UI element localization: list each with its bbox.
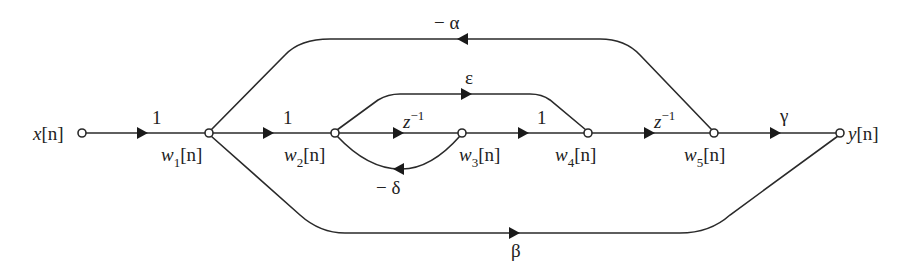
label-w2: w2[n] [284, 144, 325, 170]
arrow-right-icon [263, 127, 274, 139]
label-w4: w4[n] [555, 144, 596, 170]
arrow-left-icon [393, 163, 404, 175]
gain-w2-w3: z−1 [402, 108, 424, 132]
gain-w1-w2: 1 [283, 107, 293, 128]
node-w3 [458, 129, 466, 137]
gain-w4-w5: z−1 [653, 108, 675, 132]
node-w4 [584, 129, 592, 137]
arrow-left-icon [457, 33, 468, 45]
gain-w5-y: γ [779, 105, 788, 126]
signal-flow-graph: x[n] y[n] w1[n] w2[n] w3[n] w4[n] w5[n] … [0, 0, 922, 279]
label-w5: w5[n] [684, 144, 725, 170]
arrow-right-icon [518, 127, 529, 139]
gain-alpha: − α [434, 12, 459, 33]
node-w1 [205, 129, 213, 137]
node-x [78, 129, 86, 137]
label-x: x[n] [32, 123, 64, 144]
label-w3: w3[n] [459, 144, 500, 170]
label-y: y[n] [846, 123, 879, 144]
label-w1: w1[n] [161, 144, 202, 170]
node-w5 [710, 129, 718, 137]
gain-beta: β [511, 240, 521, 261]
edge-w3-w2-delta [337, 136, 460, 169]
arrow-right-icon [770, 127, 781, 139]
arrow-right-icon [137, 127, 148, 139]
arrow-right-icon [509, 227, 520, 239]
arrow-right-icon [461, 88, 472, 100]
gain-x-w1: 1 [152, 107, 162, 128]
gain-delta: − δ [376, 177, 400, 198]
gain-epsilon: ε [465, 67, 473, 88]
node-w2 [331, 129, 339, 137]
gain-w3-w4: 1 [537, 107, 547, 128]
node-y [836, 129, 844, 137]
